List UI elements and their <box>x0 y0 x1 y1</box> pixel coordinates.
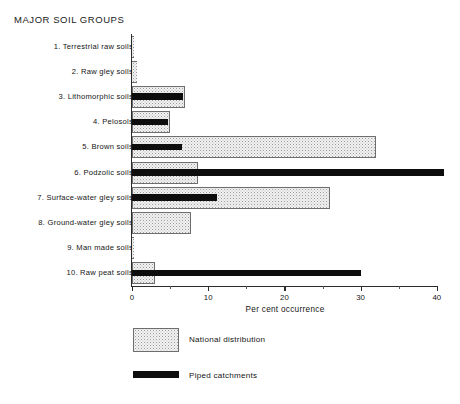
bar-row: 6. Podzolic soils <box>0 160 460 185</box>
category-label: 8. Ground-water gley soils <box>38 218 133 227</box>
category-label: 4. Pelosols <box>93 117 133 126</box>
bar-row: 9. Man made soils <box>0 236 460 261</box>
category-label: 3. Lithomorphic soils <box>59 92 133 101</box>
bar-national-distribution <box>132 36 134 58</box>
x-tick-minor <box>170 286 171 289</box>
bar-piped-catchments <box>132 119 168 126</box>
bar-national-distribution <box>132 237 134 259</box>
bar-row: 3. Lithomorphic soils <box>0 84 460 109</box>
bar-row: 7. Surface-water gley soils <box>0 185 460 210</box>
bar-piped-catchments <box>132 194 217 201</box>
x-tick-major <box>284 286 285 291</box>
category-label: 5. Brown soils <box>82 142 133 151</box>
x-tick-label: 0 <box>130 293 134 302</box>
bar-row: 10. Raw peat soils <box>0 261 460 286</box>
legend-label-national: National distribution <box>189 335 265 344</box>
chart-legend: National distribution Piped catchments <box>133 328 433 388</box>
x-tick-major <box>437 286 438 291</box>
category-label: 2. Raw gley soils <box>72 67 133 76</box>
x-tick-minor <box>246 286 247 289</box>
x-tick-label: 10 <box>204 293 213 302</box>
category-label: 6. Podzolic soils <box>74 168 133 177</box>
x-tick-label: 30 <box>356 293 365 302</box>
x-tick-major <box>132 286 133 291</box>
x-tick-minor <box>323 286 324 289</box>
soil-groups-bar-chart: MAJOR SOIL GROUPS 1. Terrestrial raw soi… <box>0 0 460 404</box>
bar-piped-catchments <box>132 169 444 176</box>
bar-national-distribution <box>132 212 191 234</box>
x-tick-label: 20 <box>280 293 289 302</box>
category-label: 10. Raw peat soils <box>66 268 133 277</box>
bar-row: 1. Terrestrial raw soils <box>0 34 460 59</box>
solid-black-swatch-icon <box>133 371 179 378</box>
x-axis-title: Per cent occurrence <box>246 305 325 314</box>
stipple-swatch-icon <box>133 328 179 352</box>
bar-row: 5. Brown soils <box>0 135 460 160</box>
category-label: 1. Terrestrial raw soils <box>54 42 133 51</box>
category-label: 9. Man made soils <box>67 243 133 252</box>
category-label: 7. Surface-water gley soils <box>37 193 133 202</box>
x-tick-minor <box>399 286 400 289</box>
bar-national-distribution <box>132 61 137 83</box>
bar-row: 2. Raw gley soils <box>0 59 460 84</box>
x-tick-label: 40 <box>432 293 441 302</box>
x-tick-major <box>361 286 362 291</box>
bar-row: 4. Pelosols <box>0 110 460 135</box>
bar-piped-catchments <box>132 93 183 100</box>
bar-row: 8. Ground-water gley soils <box>0 210 460 235</box>
legend-label-piped: Piped catchments <box>189 371 257 380</box>
legend-item-piped: Piped catchments <box>133 364 433 392</box>
x-axis: 010203040 Per cent occurrence <box>0 286 460 326</box>
plot-area: 1. Terrestrial raw soils2. Raw gley soil… <box>0 34 460 288</box>
legend-item-national: National distribution <box>133 328 433 356</box>
x-tick-major <box>208 286 209 291</box>
bar-piped-catchments <box>132 270 361 277</box>
bar-piped-catchments <box>132 144 182 151</box>
chart-title: MAJOR SOIL GROUPS <box>14 14 124 25</box>
